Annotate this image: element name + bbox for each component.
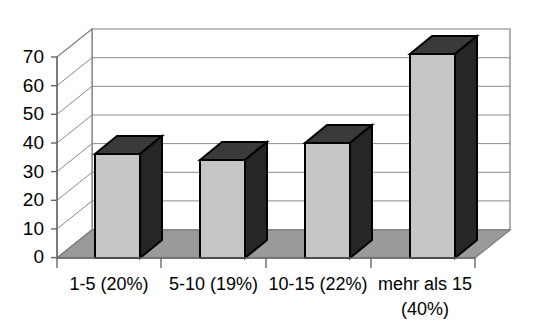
y-tick-label-60: 60 [0,75,44,97]
y-tick-label-0: 0 [0,246,44,268]
x-tick-label-4: mehr als 15 (40%) [371,272,479,322]
bar-3 [305,125,372,258]
y-tick-label-10: 10 [0,218,44,240]
plot-left-wall [57,29,92,258]
bar-chart: 70 60 50 40 30 20 10 0 1-5 (20%) 5-10 (1… [0,0,534,324]
x-tick-label-3: 10-15 (22%) [264,272,372,297]
x-tick-label-1: 1-5 (20%) [57,272,161,297]
y-tick-label-20: 20 [0,189,44,211]
bar-2 [200,142,267,258]
y-tick-label-50: 50 [0,103,44,125]
y-tick-label-30: 30 [0,161,44,183]
y-tick-marks [51,57,57,258]
bar-4 [410,36,477,258]
x-tick-marks [57,258,475,268]
bar-1 [95,136,162,258]
y-tick-label-70: 70 [0,46,44,68]
y-tick-label-40: 40 [0,132,44,154]
x-tick-label-2: 5-10 (19%) [161,272,266,297]
